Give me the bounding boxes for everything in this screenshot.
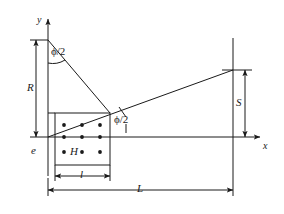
field-dot — [62, 135, 66, 139]
label-H: H — [70, 146, 78, 157]
field-dot — [80, 135, 84, 139]
angle-label-phi-middle: ϕ/2 — [114, 114, 128, 125]
x-axis-label: x — [263, 141, 267, 151]
field-dot — [62, 150, 66, 154]
lower-boundary-ray — [48, 70, 233, 137]
dimension-label-I: l — [80, 169, 83, 180]
field-dot-group — [62, 123, 102, 154]
field-dot — [62, 123, 66, 127]
dimension-label-L: L — [137, 183, 143, 194]
label-e: e — [31, 145, 36, 156]
source-block-rect — [55, 113, 110, 165]
field-dot — [80, 150, 84, 154]
figure-canvas: y x ϕ/2 ϕ/2 R S L l e H — [0, 0, 284, 214]
field-dot — [98, 123, 102, 127]
angle-label-phi-top: ϕ/2 — [51, 46, 65, 57]
dimension-label-S: S — [236, 97, 242, 108]
y-axis-label: y — [37, 15, 41, 25]
field-dot — [80, 123, 84, 127]
field-dot — [98, 150, 102, 154]
dimension-label-R: R — [27, 82, 34, 93]
angle-arc-top — [48, 60, 65, 64]
field-dot — [98, 135, 102, 139]
